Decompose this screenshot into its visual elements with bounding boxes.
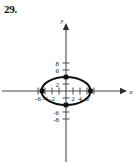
problem-number: 29. [4, 3, 17, 15]
vertex-point-bottom [64, 103, 69, 108]
y-axis-label: y [59, 17, 64, 25]
vertex-point-top [64, 75, 69, 80]
x-axis-label: x [128, 88, 133, 96]
y-tick-label: 2 [56, 81, 60, 89]
y-tick-label: 6 [56, 67, 60, 75]
x-tick-label: -6 [35, 95, 41, 103]
vertex-point-left [40, 89, 45, 94]
x-axis-arrow-icon [120, 88, 127, 94]
x-tick-label: 2 [71, 95, 75, 103]
vertex-point-right [88, 89, 93, 94]
plot-area: -6 -4 -2 2 4 6 8 6 2 -6 -8 x y [0, 16, 137, 164]
coordinate-plot: -6 -4 -2 2 4 6 8 6 2 -6 -8 x y [0, 16, 137, 164]
axes-group [2, 23, 127, 162]
y-axis-arrow-icon [63, 23, 69, 30]
figure-container: 29. [0, 0, 137, 164]
y-tick-label: -8 [53, 116, 59, 124]
